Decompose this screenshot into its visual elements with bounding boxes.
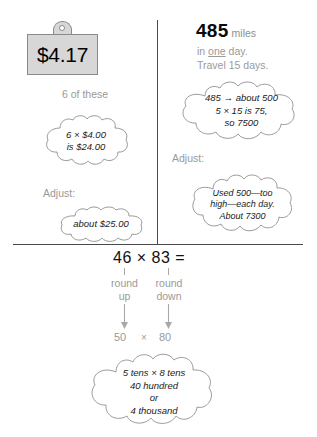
arrow-down-right-icon [162, 304, 175, 334]
right-adjust-cloud: Used 500—too high—each day. About 7300 [190, 173, 295, 237]
miles-number: 485 [196, 20, 229, 41]
cloud-line: so 7500 [225, 117, 259, 130]
cloud-text: Used 500—too high—each day. About 7300 [190, 173, 295, 237]
right-estimate-cloud: 485 → about 500 5 × 15 is 75, so 7500 [179, 80, 304, 142]
cloud-line: or [150, 392, 158, 405]
left-estimate-cloud: 6 × $4.00 is $24.00 [40, 114, 132, 168]
cloud-line: 5 × 15 is 75, [215, 105, 267, 118]
cloud-line: About 7300 [219, 211, 265, 223]
cloud-line: high—each day. [210, 199, 274, 211]
price-tag-hole-icon [59, 25, 65, 31]
price-tag-value: $4.17 [27, 34, 98, 75]
worksheet-page: $4.17 6 of these 6 × $4.00 is $24.00 Adj… [0, 0, 317, 437]
cloud-line: is $24.00 [67, 141, 106, 154]
round-down-line-2: down [145, 290, 193, 303]
tick-round-up [124, 268, 125, 275]
result-cloud: 5 tens × 8 tens 40 hundred or 4 thousand [88, 352, 220, 432]
cloud-line: 4 thousand [130, 405, 177, 418]
miles-unit: miles [232, 27, 257, 39]
rounded-left-value: 50 [114, 331, 126, 343]
tick-round-down [168, 268, 169, 275]
cloud-line: about $25.00 [73, 218, 128, 231]
quantity-note: 6 of these [62, 88, 108, 101]
context-line-one: in one day. [197, 45, 268, 59]
cloud-line: Used 500—too [212, 188, 272, 200]
round-down-label: round down [145, 277, 193, 303]
cloud-text: 5 tens × 8 tens 40 hundred or 4 thousand [88, 352, 220, 432]
rounded-operator: × [141, 332, 147, 343]
miles-headline: 485miles [196, 20, 256, 42]
arrow-down-left-icon [118, 304, 131, 334]
vertical-divider [157, 20, 158, 244]
horizontal-divider [13, 244, 303, 245]
context-lines: in one day. Travel 15 days. [197, 45, 268, 72]
cloud-text: about $25.00 [55, 206, 147, 242]
rounded-right-value: 80 [159, 331, 171, 343]
bottom-expression: 46 × 83 = [113, 249, 185, 267]
right-adjust-label: Adjust: [172, 152, 204, 165]
underlined-word: one [208, 45, 226, 57]
round-up-label: round up [102, 277, 147, 303]
round-down-line-1: round [145, 277, 193, 290]
cloud-line: 485 → about 500 [205, 92, 278, 105]
context-line-two: Travel 15 days. [197, 59, 268, 73]
round-up-line-1: round [102, 277, 147, 290]
cloud-line: 6 × $4.00 [66, 129, 106, 142]
left-adjust-cloud: about $25.00 [55, 206, 147, 242]
left-adjust-label: Adjust: [43, 187, 75, 200]
round-up-line-2: up [102, 290, 147, 303]
cloud-line: 5 tens × 8 tens [123, 367, 186, 380]
cloud-text: 6 × $4.00 is $24.00 [40, 114, 132, 168]
cloud-line: 40 hundred [130, 380, 178, 393]
cloud-text: 485 → about 500 5 × 15 is 75, so 7500 [179, 80, 304, 142]
